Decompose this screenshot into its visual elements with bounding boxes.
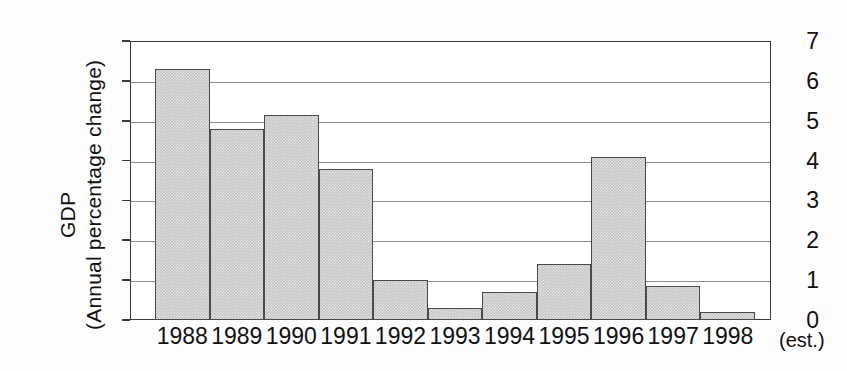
bar-1992 — [373, 280, 428, 320]
y-axis-title-line-1: GDP — [56, 192, 80, 238]
estimate-note: (est.) — [779, 329, 825, 352]
x-tick-label-1990: 1990 — [264, 325, 319, 348]
bar-1997 — [646, 286, 701, 320]
y-tick-mark-0 — [122, 319, 130, 321]
bar-1991 — [319, 169, 374, 320]
y-tick-mark-1 — [122, 279, 130, 281]
bars-layer — [130, 41, 771, 320]
y-tick-mark-2 — [122, 239, 130, 241]
y-tick-mark-3 — [122, 200, 130, 202]
y-axis-title-line-2: (Annual percentage change) — [82, 60, 106, 330]
bar-1989 — [210, 129, 265, 320]
x-tick-label-1989: 1989 — [210, 325, 265, 348]
bar-1993 — [428, 308, 483, 320]
bar-1994 — [482, 292, 537, 320]
bar-1990 — [264, 115, 319, 320]
gdp-bar-chart: GDP (Annual percentage change) 76543210 … — [0, 0, 847, 371]
x-tick-label-1994: 1994 — [482, 325, 537, 348]
x-axis-tick-labels: 1988198919901991199219931994199519961997… — [130, 325, 771, 365]
bar-1995 — [537, 264, 592, 320]
x-tick-label-1991: 1991 — [319, 325, 374, 348]
x-tick-label-1992: 1992 — [373, 325, 428, 348]
y-tick-mark-6 — [122, 80, 130, 82]
x-tick-label-1995: 1995 — [537, 325, 592, 348]
bar-1996 — [591, 157, 646, 320]
y-tick-mark-4 — [122, 160, 130, 162]
x-tick-label-1993: 1993 — [428, 325, 483, 348]
y-axis-title: GDP (Annual percentage change) — [0, 0, 92, 340]
x-tick-label-1996: 1996 — [591, 325, 646, 348]
bar-1988 — [155, 69, 210, 320]
y-tick-mark-5 — [122, 120, 130, 122]
bar-1998 — [700, 312, 755, 320]
x-tick-label-1997: 1997 — [646, 325, 701, 348]
x-tick-label-1998: 1998 — [700, 325, 755, 348]
x-tick-label-1988: 1988 — [155, 325, 210, 348]
y-tick-mark-7 — [122, 40, 130, 42]
